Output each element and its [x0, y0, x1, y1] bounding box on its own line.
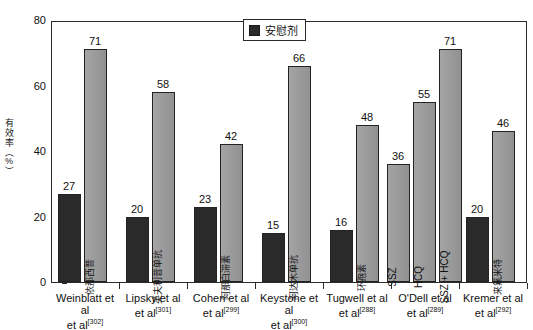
x-axis-label-author: Lipsky et al [119, 292, 187, 304]
chart-legend: 安慰剂 [243, 19, 306, 41]
bar-inner-label: HCQ [414, 266, 424, 288]
x-axis-label-reference: et al[299] [187, 304, 255, 319]
x-axis-label-author: O'Dell et al [391, 292, 459, 304]
x-axis-label-reference: et al[301] [119, 304, 187, 319]
bar-group: 20来氟米特46 [460, 22, 528, 282]
legend-label-placebo: 安慰剂 [265, 22, 298, 38]
plot-area: 27依那西普7120英夫利昔单抗5823阿那白滞素4215阿达木单抗6616环孢… [52, 22, 526, 282]
x-axis-tick-mark [527, 283, 528, 289]
x-axis-label-reference: et al[302] [51, 316, 119, 330]
y-axis-tick-mark [62, 283, 67, 284]
bar-placebo [194, 207, 217, 282]
bar-treatment: SSZ [387, 164, 410, 282]
bar-group: SSZ36HCQ55SSZ + HCQ71 [392, 22, 460, 282]
bar-treatment: HCQ [413, 102, 436, 282]
bar-group: 15阿达木单抗66 [256, 22, 324, 282]
bar-value-label: 23 [199, 193, 211, 205]
bar-value-label: 15 [267, 219, 279, 231]
bar-placebo [126, 217, 149, 283]
y-axis-tick-label: 80 [20, 14, 46, 26]
x-axis-label: Lipsky et alet al[301] [119, 292, 187, 319]
x-axis-label: Keystone et alet al[300] [255, 292, 323, 330]
x-axis-tick-mark [459, 283, 460, 289]
legend-swatch-placebo [249, 25, 260, 36]
bar-value-label: 48 [361, 111, 373, 123]
y-axis-title-char: 有 [2, 118, 16, 128]
x-axis-label-reference: et al[288] [323, 304, 391, 319]
bar-value-label: 36 [392, 150, 404, 162]
x-axis-label-reference: et al[292] [459, 304, 527, 319]
bar-placebo [262, 233, 285, 282]
bar-treatment: 来氟米特 [492, 131, 515, 282]
y-axis-ticks: 020406080 [16, 0, 46, 330]
bar-placebo [58, 194, 81, 282]
y-axis-title-char: 效 [2, 128, 16, 138]
bar-value-label: 27 [63, 180, 75, 192]
bar-value-label: 55 [418, 88, 430, 100]
x-axis-label-author: Tugwell et al [323, 292, 391, 304]
x-axis-label-reference: et al[300] [255, 316, 323, 330]
bar-group: 23阿那白滞素42 [188, 22, 256, 282]
bar-chart: 有效率（%） 020406080 27依那西普7120英夫利昔单抗5823阿那白… [0, 0, 533, 330]
bar-placebo [330, 230, 353, 282]
bar-value-label: 20 [471, 203, 483, 215]
x-axis-label: Tugwell et alet al[288] [323, 292, 391, 319]
y-axis-tick-label: 60 [20, 80, 46, 92]
bar-treatment: 阿那白滞素 [220, 144, 243, 282]
plot-frame: 27依那西普7120英夫利昔单抗5823阿那白滞素4215阿达木单抗6616环孢… [51, 21, 527, 283]
bar-value-label: 42 [225, 130, 237, 142]
bar-inner-label: 环孢素 [357, 264, 367, 291]
bar-value-label: 66 [293, 52, 305, 64]
bar-value-label: 71 [444, 35, 456, 47]
bar-value-label: 46 [497, 117, 509, 129]
y-axis-tick-label: 0 [20, 276, 46, 288]
bar-inner-label: SSZ [388, 267, 398, 286]
x-axis-tick-mark [255, 283, 256, 289]
bar-group: 16环孢素48 [324, 22, 392, 282]
bar-treatment: 依那西普 [84, 49, 107, 282]
x-axis-label: Weinblatt et alet al[302] [51, 292, 119, 330]
x-axis-tick-mark [391, 283, 392, 289]
y-axis-tick-label: 20 [20, 211, 46, 223]
bar-inner-label: 依那西普 [85, 259, 95, 295]
bar-treatment: SSZ + HCQ [439, 49, 462, 282]
x-axis-label-reference: et al[289] [391, 304, 459, 319]
bar-value-label: 20 [131, 203, 143, 215]
x-axis-label: Cohen et alet al[299] [187, 292, 255, 319]
y-axis-title: 有效率（%） [2, 118, 16, 174]
x-axis-label-author: Keystone et al [255, 292, 323, 316]
bar-value-label: 71 [89, 35, 101, 47]
bar-group: 27依那西普71 [52, 22, 120, 282]
bar-value-label: 58 [157, 78, 169, 90]
x-axis-label-author: Kremer et al [459, 292, 527, 304]
x-axis-label: O'Dell et alet al[289] [391, 292, 459, 319]
bar-treatment: 环孢素 [356, 125, 379, 282]
bar-value-label: 16 [335, 216, 347, 228]
y-axis-tick-label: 40 [20, 145, 46, 157]
x-axis-label: Kremer et alet al[292] [459, 292, 527, 319]
x-axis-tick-mark [323, 283, 324, 289]
x-axis-tick-mark [119, 283, 120, 289]
bar-placebo [466, 217, 489, 283]
bar-group: 20英夫利昔单抗58 [120, 22, 188, 282]
bar-treatment: 阿达木单抗 [288, 66, 311, 282]
bar-treatment: 英夫利昔单抗 [152, 92, 175, 282]
x-axis-label-author: Cohen et al [187, 292, 255, 304]
x-axis-label-author: Weinblatt et al [51, 292, 119, 316]
y-axis-title-char: ） [5, 163, 13, 177]
x-axis-tick-mark [187, 283, 188, 289]
bar-inner-label: 来氟米特 [493, 259, 503, 295]
y-axis-title-char: （ [5, 145, 13, 159]
